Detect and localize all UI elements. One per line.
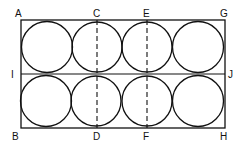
circle (71, 76, 121, 126)
label-e: E (143, 8, 150, 19)
circle (173, 22, 224, 73)
circles-top-row (22, 22, 224, 73)
label-g: G (220, 8, 228, 19)
label-j: J (228, 69, 233, 80)
geometry-diagram: A C E G I J B D F H (0, 0, 239, 150)
diagram-canvas: A C E G I J B D F H (0, 0, 239, 150)
circle (22, 22, 73, 73)
label-a: A (15, 8, 22, 19)
circles-bottom-row (21, 76, 224, 127)
label-i: I (11, 69, 14, 80)
circle (173, 76, 224, 127)
label-d: D (93, 131, 100, 142)
label-h: H (220, 131, 227, 142)
label-c: C (93, 8, 100, 19)
circle (21, 76, 72, 127)
label-f: F (143, 131, 149, 142)
label-b: B (12, 131, 19, 142)
